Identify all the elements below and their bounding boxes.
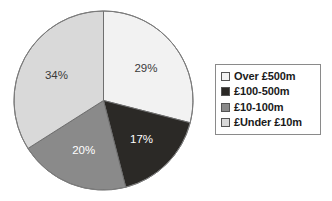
- pie-slice-label-100-500m: 17%: [130, 133, 153, 145]
- legend-item-under-10m[interactable]: £Under £10m: [221, 115, 315, 130]
- chart-legend: Over £500m £100-500m £10-100m £Under £10…: [215, 64, 321, 135]
- pie-slice-label-under-10m: 34%: [45, 69, 68, 81]
- legend-item-10-100m[interactable]: £10-100m: [221, 100, 315, 115]
- legend-swatch-over-500m: [221, 72, 230, 81]
- legend-label-under-10m: £Under £10m: [234, 115, 302, 130]
- legend-label-over-500m: Over £500m: [234, 69, 295, 84]
- legend-swatch-10-100m: [221, 103, 230, 112]
- legend-label-100-500m: £100-500m: [234, 84, 289, 99]
- legend-swatch-under-10m: [221, 118, 230, 127]
- pie-slice-label-over-500m: 29%: [134, 62, 157, 74]
- legend-label-10-100m: £10-100m: [234, 100, 283, 115]
- pie-svg: 29%17%20%34%: [13, 10, 194, 191]
- legend-item-over-500m[interactable]: Over £500m: [221, 69, 315, 84]
- legend-item-100-500m[interactable]: £100-500m: [221, 84, 315, 99]
- legend-swatch-100-500m: [221, 87, 230, 96]
- pie-chart-figure: 29%17%20%34% Over £500m £100-500m £10-10…: [0, 0, 332, 201]
- pie-slice-label-10-100m: 20%: [72, 144, 95, 156]
- pie-chart-graphic: 29%17%20%34%: [13, 10, 194, 191]
